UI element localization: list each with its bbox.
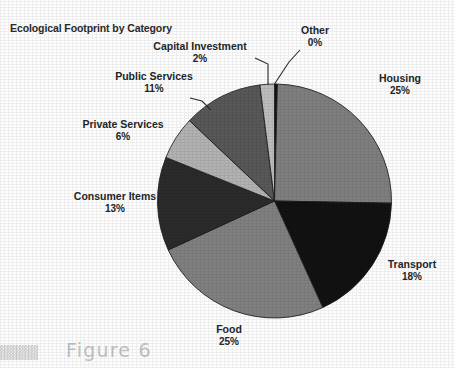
- pie-label-other-percent: 0%: [285, 37, 345, 50]
- pie-label-capital-investment: Capital Investment 2%: [135, 40, 265, 66]
- pie-label-public-services-name: Public Services: [115, 70, 193, 82]
- pie-label-private-services-percent: 6%: [62, 131, 184, 144]
- pie-label-food-name: Food: [216, 323, 242, 335]
- leader-line-other: [275, 50, 301, 84]
- figure-caption: Figure 6: [66, 339, 152, 361]
- pie-label-capital-investment-name: Capital Investment: [153, 40, 246, 52]
- pie-label-private-services-name: Private Services: [82, 118, 163, 130]
- pie-label-private-services: Private Services 6%: [62, 118, 184, 144]
- pie-label-housing: Housing 25%: [360, 72, 440, 98]
- pie-label-other-name: Other: [301, 24, 329, 36]
- pie-label-transport: Transport 18%: [372, 258, 452, 284]
- pie-label-housing-percent: 25%: [360, 85, 440, 98]
- caption-marker-block: [0, 345, 38, 360]
- pie-label-food: Food 25%: [194, 323, 264, 349]
- pie-label-consumer-items-name: Consumer Items: [74, 190, 156, 202]
- pie-label-housing-name: Housing: [379, 72, 421, 84]
- pie-label-consumer-items-percent: 13%: [48, 203, 182, 216]
- pie-label-public-services: Public Services 11%: [96, 70, 212, 96]
- pie-slice-housing[interactable]: Housing 25%: [275, 84, 392, 203]
- pie-label-capital-investment-percent: 2%: [135, 53, 265, 66]
- pie-label-public-services-percent: 11%: [96, 83, 212, 96]
- pie-slice-group: Other 0%Housing 25%Transport 18%Food 25%…: [157, 84, 391, 318]
- pie-label-transport-name: Transport: [388, 258, 436, 270]
- pie-label-consumer-items: Consumer Items 13%: [48, 190, 182, 216]
- figure-canvas: Ecological Footprint by Category Other 0…: [0, 0, 454, 368]
- pie-label-transport-percent: 18%: [372, 271, 452, 284]
- pie-label-other: Other 0%: [285, 24, 345, 50]
- pie-label-food-percent: 25%: [194, 336, 264, 349]
